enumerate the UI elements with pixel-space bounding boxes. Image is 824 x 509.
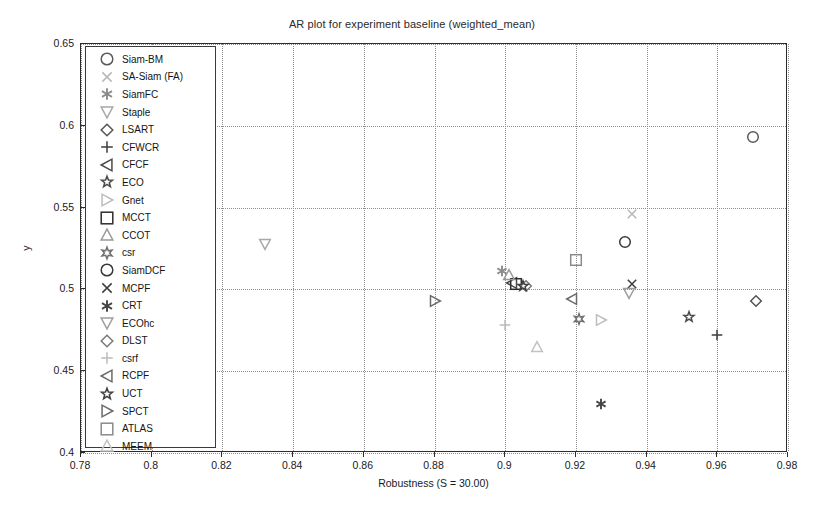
x-axis-tick-label: 0.98	[777, 459, 797, 471]
x-axis-tick-label: 0.84	[282, 459, 302, 471]
legend-marker-icon	[92, 262, 122, 279]
legend-item-label: LSART	[122, 125, 154, 135]
legend-marker-icon	[92, 210, 122, 227]
legend-item-spct[interactable]: SPCT	[86, 403, 215, 421]
data-point-ccot[interactable]	[502, 268, 515, 281]
legend-item-meem[interactable]: MEEM	[86, 438, 215, 456]
legend-item-mcct[interactable]: MCCT	[86, 209, 215, 227]
data-point-siamdcf[interactable]	[619, 235, 632, 248]
y-axis-tick-label: 0.55	[38, 201, 74, 213]
legend-item-dlst[interactable]: DLST	[86, 333, 215, 351]
x-axis-label: Robustness (S = 30.00)	[80, 477, 787, 489]
x-axis-tick	[221, 452, 222, 457]
gridline-vertical	[576, 44, 577, 451]
legend-item-cfcf[interactable]: CFCF	[86, 157, 215, 175]
legend-item-siamfc[interactable]: SiamFC	[86, 86, 215, 104]
gridline-horizontal	[81, 44, 786, 45]
legend-marker-icon	[92, 350, 122, 367]
legend-item-csr[interactable]: csr	[86, 245, 215, 263]
data-point-staple[interactable]	[258, 237, 271, 250]
data-point-gnet[interactable]	[594, 314, 607, 327]
y-axis-tick-label: 0.6	[38, 119, 74, 131]
x-axis-tick-label: 0.9	[497, 459, 512, 471]
legend-marker-icon	[92, 438, 122, 455]
legend-marker-icon	[92, 157, 122, 174]
legend-item-label: csr	[122, 248, 135, 258]
legend-item-cfwcr[interactable]: CFWCR	[86, 139, 215, 157]
legend-item-label: ECOhc	[122, 319, 154, 329]
legend-item-atlas[interactable]: ATLAS	[86, 420, 215, 438]
data-point-csr[interactable]	[573, 312, 586, 325]
data-point-lsart[interactable]	[750, 294, 763, 307]
data-point-cfwcr[interactable]	[711, 329, 724, 342]
y-axis-tick-label: 0.65	[38, 37, 74, 49]
y-axis-tick-label: 0.5	[38, 282, 74, 294]
legend-item-label: DLST	[122, 336, 148, 346]
legend-item-rcpf[interactable]: RCPF	[86, 368, 215, 386]
legend-marker-icon	[92, 122, 122, 139]
legend-item-mcpf[interactable]: MCPF	[86, 280, 215, 298]
x-axis-tick-label: 0.78	[70, 459, 90, 471]
data-point-ecohc[interactable]	[622, 286, 635, 299]
gridline-vertical	[505, 44, 506, 451]
legend-item-csrf[interactable]: csrf	[86, 350, 215, 368]
y-axis-label: y	[20, 245, 32, 250]
gridline-vertical	[717, 44, 718, 451]
legend-marker-icon	[92, 192, 122, 209]
legend-item-crt[interactable]: CRT	[86, 297, 215, 315]
legend-item-label: Gnet	[122, 196, 144, 206]
legend-item-gnet[interactable]: Gnet	[86, 192, 215, 210]
legend-item-sa-siam-fa[interactable]: SA-Siam (FA)	[86, 69, 215, 87]
data-point-uct[interactable]	[516, 280, 529, 293]
legend-item-eco[interactable]: ECO	[86, 174, 215, 192]
legend-marker-icon	[92, 280, 122, 297]
x-axis-tick-label: 0.8	[143, 459, 158, 471]
x-axis-tick	[363, 452, 364, 457]
y-axis-tick	[80, 43, 85, 44]
data-point-crt[interactable]	[594, 397, 607, 410]
x-axis-tick-label: 0.82	[211, 459, 231, 471]
legend-item-staple[interactable]: Staple	[86, 104, 215, 122]
legend-item-label: ECO	[122, 178, 144, 188]
data-point-meem[interactable]	[531, 340, 544, 353]
legend-item-lsart[interactable]: LSART	[86, 121, 215, 139]
legend-marker-icon	[92, 386, 122, 403]
legend-item-label: MCCT	[122, 213, 151, 223]
legend-item-label: Staple	[122, 108, 150, 118]
legend-marker-icon	[92, 315, 122, 332]
legend-item-ecohc[interactable]: ECOhc	[86, 315, 215, 333]
legend-item-siamdcf[interactable]: SiamDCF	[86, 262, 215, 280]
legend-item-label: CFWCR	[122, 143, 159, 153]
gridline-vertical	[435, 44, 436, 451]
chart-title: AR plot for experiment baseline (weighte…	[0, 18, 824, 30]
x-axis-tick-label: 0.88	[423, 459, 443, 471]
legend-marker-icon	[92, 139, 122, 156]
legend-marker-icon	[92, 86, 122, 103]
x-axis-tick	[787, 452, 788, 457]
data-point-eco[interactable]	[683, 311, 696, 324]
legend-item-label: MEEM	[122, 442, 152, 452]
legend-item-label: SiamDCF	[122, 266, 165, 276]
legend-item-uct[interactable]: UCT	[86, 385, 215, 403]
legend-item-label: CCOT	[122, 231, 150, 241]
data-point-rcpf[interactable]	[566, 293, 579, 306]
legend-marker-icon	[92, 421, 122, 438]
gridline-vertical	[788, 44, 789, 451]
legend-item-ccot[interactable]: CCOT	[86, 227, 215, 245]
legend-item-label: CFCF	[122, 160, 149, 170]
data-point-sa-siam-fa[interactable]	[626, 208, 639, 221]
data-point-csrf[interactable]	[499, 319, 512, 332]
x-axis-tick-label: 0.86	[353, 459, 373, 471]
x-axis-tick	[575, 452, 576, 457]
legend-marker-icon	[92, 174, 122, 191]
data-point-atlas[interactable]	[569, 253, 582, 266]
x-axis-tick-label: 0.92	[565, 459, 585, 471]
legend-item-label: Siam-BM	[122, 55, 163, 65]
data-point-spct[interactable]	[428, 294, 441, 307]
legend-marker-icon	[92, 298, 122, 315]
legend-marker-icon	[92, 333, 122, 350]
x-axis-tick	[504, 452, 505, 457]
data-point-siam-bm[interactable]	[746, 131, 759, 144]
legend-item-siam-bm[interactable]: Siam-BM	[86, 51, 215, 69]
legend-item-label: SPCT	[122, 407, 149, 417]
